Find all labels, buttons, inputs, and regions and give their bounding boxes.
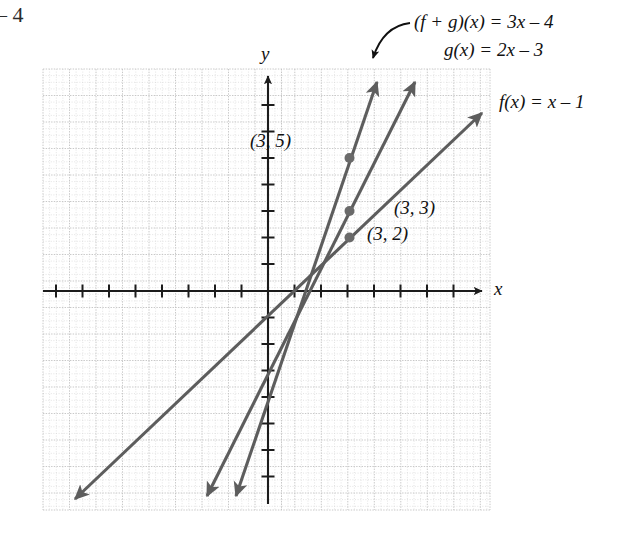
equation-label-g: g(x) = 2x – 3 <box>444 40 543 59</box>
y-axis-label: y <box>261 44 269 63</box>
point-3-2 <box>345 233 355 243</box>
coordinate-plane-svg <box>0 0 631 541</box>
point-label-3-3: (3, 3) <box>394 198 435 217</box>
equation-label-f: f(x) = x – 1 <box>499 92 585 111</box>
point-label-3-5: (3, 5) <box>250 131 291 150</box>
callout-curved-arrow <box>373 23 410 58</box>
graph-figure: – 4 <box>0 0 631 541</box>
point-3-5 <box>345 153 355 163</box>
x-axis-label: x <box>494 279 502 298</box>
point-3-3 <box>345 206 355 216</box>
point-label-3-2: (3, 2) <box>367 224 408 243</box>
equation-label-f-plus-g: (f + g)(x) = 3x – 4 <box>414 12 554 31</box>
